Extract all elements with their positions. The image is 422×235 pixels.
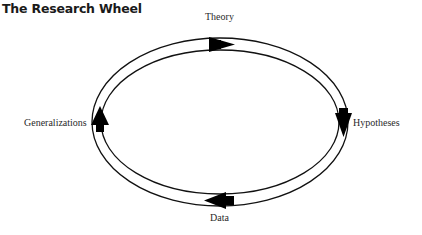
inner-ring [101,50,339,194]
node-label-theory: Theory [205,11,234,22]
node-label-hypotheses: Hypotheses [353,117,400,128]
node-label-generalizations: Generalizations [24,117,87,128]
outer-ring [92,38,348,206]
node-label-data: Data [210,212,229,223]
